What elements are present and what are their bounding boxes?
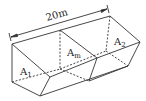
trough-diagram: 20m A1 Am A2 xyxy=(0,0,146,101)
top-edge xyxy=(12,16,110,44)
label-a2: A2 xyxy=(113,36,126,49)
label-am: Am xyxy=(66,47,81,60)
section-a1-outline xyxy=(12,44,50,96)
length-label: 20m xyxy=(45,6,70,23)
label-a1: A1 xyxy=(19,66,32,79)
